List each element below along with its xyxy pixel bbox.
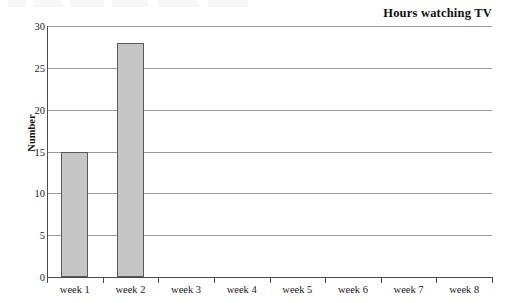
- y-tick-label: 30: [15, 21, 45, 32]
- x-tick-mark: [325, 278, 326, 283]
- y-tick-label: 0: [15, 272, 45, 283]
- x-tick-label: week 5: [282, 284, 312, 295]
- bar-chart: Hours watching TV Number 051015202530 we…: [0, 0, 506, 303]
- gridline: [47, 110, 492, 111]
- x-tick-label: week 4: [227, 284, 257, 295]
- plot-area: [47, 26, 492, 277]
- gridline: [47, 68, 492, 69]
- gridline: [47, 26, 492, 27]
- bar: [61, 152, 88, 278]
- x-tick-label: week 7: [394, 284, 424, 295]
- x-tick-label: week 6: [338, 284, 368, 295]
- x-tick-mark: [492, 278, 493, 283]
- x-tick-mark: [47, 278, 48, 283]
- x-tick-label: week 1: [60, 284, 90, 295]
- y-axis-line: [47, 26, 48, 278]
- x-tick-mark: [436, 278, 437, 283]
- y-tick-label: 25: [15, 62, 45, 73]
- y-axis-ticks: 051015202530: [8, 0, 45, 303]
- x-tick-label: week 2: [115, 284, 145, 295]
- x-tick-label: week 8: [449, 284, 479, 295]
- x-tick-mark: [381, 278, 382, 283]
- y-tick-label: 10: [15, 188, 45, 199]
- x-tick-label: week 3: [171, 284, 201, 295]
- chart-title: Hours watching TV: [0, 6, 492, 21]
- x-tick-mark: [158, 278, 159, 283]
- y-tick-label: 5: [15, 230, 45, 241]
- x-tick-mark: [214, 278, 215, 283]
- gridline: [47, 152, 492, 153]
- bar: [117, 43, 144, 277]
- y-tick-label: 20: [15, 104, 45, 115]
- gridline: [47, 235, 492, 236]
- x-tick-mark: [270, 278, 271, 283]
- gridline: [47, 193, 492, 194]
- y-tick-label: 15: [15, 146, 45, 157]
- x-tick-mark: [103, 278, 104, 283]
